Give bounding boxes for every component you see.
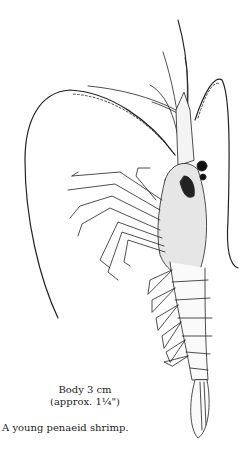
figure-caption: A young penaeid shrimp. [2, 422, 142, 433]
abdomen [170, 262, 208, 380]
left-antenna [25, 90, 175, 318]
eye [197, 161, 207, 171]
size-caption-line2: (approx. 1¼") [30, 396, 140, 408]
rostrum [176, 92, 194, 165]
size-caption-line1: Body 3 cm [30, 384, 140, 396]
size-caption: Body 3 cm (approx. 1¼") [30, 384, 140, 408]
